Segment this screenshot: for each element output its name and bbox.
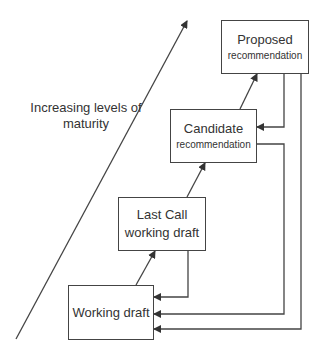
- stage-title: Working draft: [72, 305, 149, 321]
- stage-last-call-working-draft: Last Call working draft: [118, 197, 206, 251]
- return-proposed-to-candidate: [257, 73, 284, 127]
- stage-proposed-recommendation: Proposed recommendation: [221, 20, 309, 74]
- stage-title: Proposed: [237, 32, 293, 48]
- maturity-diagram: Increasing levels of maturity Proposed r…: [0, 0, 323, 357]
- stage-subtitle: recommendation: [228, 50, 302, 62]
- arrow-working-to-lastcall: [136, 251, 155, 285]
- axis-label-line1: Increasing levels of: [26, 100, 146, 116]
- stage-subtitle: working draft: [125, 225, 199, 241]
- axis-label-line2: maturity: [26, 116, 146, 132]
- stage-title: Candidate: [184, 121, 243, 137]
- stage-title: Last Call: [137, 207, 188, 223]
- stage-subtitle: recommendation: [176, 139, 250, 151]
- arrow-candidate-to-proposed: [240, 74, 257, 109]
- return-lastcall-to-working: [154, 250, 188, 297]
- stage-working-draft: Working draft: [68, 285, 154, 340]
- stage-candidate-recommendation: Candidate recommendation: [170, 109, 257, 163]
- maturity-axis-label: Increasing levels of maturity: [26, 100, 146, 133]
- arrow-lastcall-to-candidate: [187, 163, 205, 197]
